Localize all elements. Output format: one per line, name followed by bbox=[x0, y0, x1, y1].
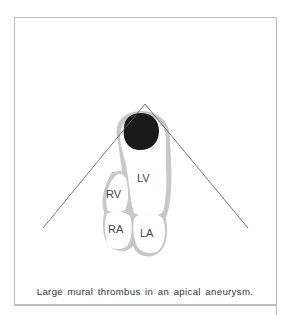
label-lv: LV bbox=[137, 172, 150, 184]
label-rv: RV bbox=[106, 188, 122, 200]
label-la: LA bbox=[140, 227, 154, 239]
apical-four-chamber-diagram: LV RV RA LA bbox=[0, 0, 283, 315]
label-ra: RA bbox=[108, 223, 124, 235]
thrombus bbox=[124, 113, 159, 150]
figure-caption: Large mural thrombus in an apical aneury… bbox=[14, 286, 276, 297]
